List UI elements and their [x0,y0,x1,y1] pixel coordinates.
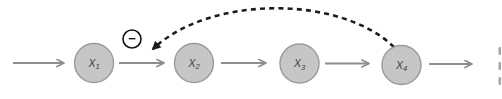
negative-sign-symbol: − [128,31,136,46]
node-label-sub-x2: 2 [194,62,200,71]
node-label-sub-x4: 4 [403,64,407,73]
edge-mark-3 [499,77,502,85]
edge-mark-1 [499,47,502,55]
feedback-arc [153,8,394,49]
edge-mark-2 [499,62,502,70]
causal-chain-diagram: X1X2X3X4− [0,0,502,99]
negative-sign-badge: − [123,30,141,48]
node-x1: X1 [75,44,114,83]
node-label-sub-x1: 1 [95,62,99,71]
node-x3: X3 [280,44,319,83]
node-x4: X4 [382,46,421,85]
node-x2: X2 [175,44,214,83]
diagram-stage: X1X2X3X4− [0,0,502,99]
